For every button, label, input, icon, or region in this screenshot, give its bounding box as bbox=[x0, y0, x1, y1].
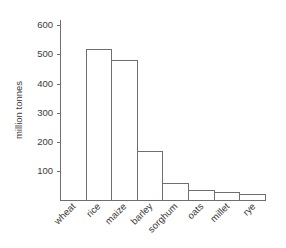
bar-wheat bbox=[86, 49, 112, 200]
y-tick-label: 600 bbox=[37, 19, 53, 30]
x-axis-tick-labels: wheat rice maize barley sorghum oats mil… bbox=[51, 200, 257, 234]
x-tick-label-maize: maize bbox=[103, 201, 129, 227]
x-tick-label-oats: oats bbox=[185, 200, 206, 221]
y-axis-title: million tonnes bbox=[13, 81, 24, 139]
bar-barley bbox=[163, 184, 189, 201]
bar-oats bbox=[214, 192, 240, 200]
chart-canvas: 100 200 300 400 500 600 million tonnes w… bbox=[0, 0, 286, 248]
x-tick-label-wheat: wheat bbox=[51, 200, 78, 227]
bar-chart-figure: 100 200 300 400 500 600 million tonnes w… bbox=[0, 0, 286, 248]
x-tick-label-rye: rye bbox=[240, 201, 257, 218]
y-axis-ticks bbox=[57, 26, 61, 172]
y-tick-label: 500 bbox=[37, 48, 53, 59]
x-tick-label-millet: millet bbox=[208, 200, 232, 224]
y-tick-label: 200 bbox=[37, 136, 53, 147]
x-tick-label-rice: rice bbox=[84, 201, 103, 220]
bars-group bbox=[86, 49, 265, 200]
bar-maize bbox=[137, 151, 163, 200]
y-tick-label: 300 bbox=[37, 107, 53, 118]
y-axis-tick-labels: 100 200 300 400 500 600 bbox=[37, 19, 53, 176]
bar-millet bbox=[240, 194, 266, 200]
bar-sorghum bbox=[189, 190, 215, 200]
y-tick-label: 400 bbox=[37, 78, 53, 89]
bar-rice bbox=[112, 61, 138, 201]
y-tick-label: 100 bbox=[37, 165, 53, 176]
